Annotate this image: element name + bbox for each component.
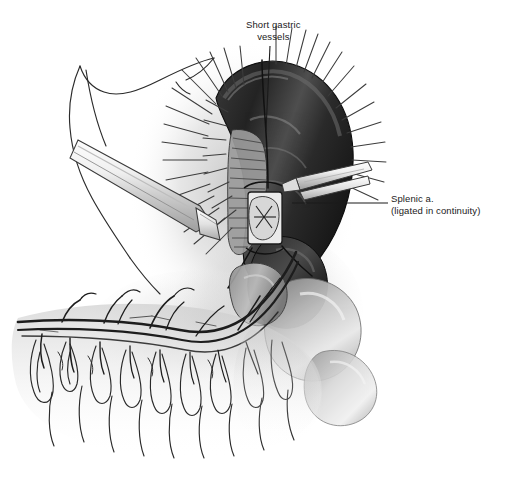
illustration-canvas [0,0,513,488]
cut-vessel-cross-section [244,182,286,254]
label-splenic-artery: Splenic a. (ligated in continuity) [391,193,480,216]
label-splenic-artery-line2: (ligated in continuity) [391,205,480,217]
label-short-gastric-line1: Short gastric [246,19,301,31]
surgical-illustration-figure: Short gastric vessels Splenic a. (ligate… [0,0,513,488]
label-short-gastric-line2: vessels [246,31,301,43]
label-short-gastric-vessels: Short gastric vessels [246,19,301,42]
label-splenic-artery-line1: Splenic a. [391,193,480,205]
